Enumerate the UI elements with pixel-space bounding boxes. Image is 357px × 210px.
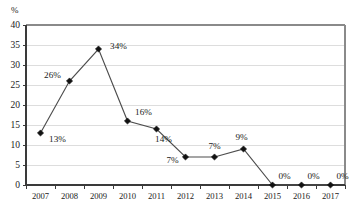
data-point-labels-group: 13%26%34%16%14%7%7%9%0%0%0% [44,41,349,181]
data-point-label: 34% [110,41,127,51]
x-axis-tick-label: 2007 [32,191,50,201]
data-point-label: 13% [49,134,66,144]
x-axis-tick-label: 2008 [61,191,78,201]
x-axis-tick-label: 2013 [206,191,223,201]
data-point-label: 26% [44,70,61,80]
y-axis-tick-label: 20 [11,100,21,110]
x-axis-tick-labels-group: 2007200820092010201120122013201420152016… [32,191,340,201]
x-axis-tick-label: 2014 [235,191,253,201]
y-axis-tick-label: 25 [11,80,21,90]
x-axis-tick-label: 2012 [177,191,194,201]
x-axis-tick-label: 2010 [119,191,136,201]
chart-canvas: % 0510152025303540 200720082009201020112… [0,0,357,210]
data-point-label: 16% [135,107,152,117]
data-point-label: 0% [307,171,320,181]
data-point-label: 7% [166,155,179,165]
x-axis-tick-label: 2011 [148,191,165,201]
data-point-label: 9% [235,132,248,142]
x-axis-tick-label: 2016 [293,191,311,201]
y-axis-unit-label: % [11,5,19,15]
series-data-marker [327,182,333,188]
series-data-marker [37,130,43,136]
data-point-label: 0% [278,171,291,181]
series-data-marker [211,154,217,160]
x-axis-tick-label: 2017 [322,191,340,201]
series-data-marker [124,118,130,124]
y-axis-tick-label: 15 [11,120,21,130]
data-point-label: 14% [155,134,172,144]
x-axis-tick-label: 2009 [90,191,107,201]
y-axis-tick-label: 10 [11,140,21,150]
y-axis-tick-label: 30 [11,60,21,70]
y-axis-tick-labels-group: 0510152025303540 [11,20,21,190]
y-axis-tick-label: 5 [15,160,20,170]
y-axis-tick-label: 40 [11,20,21,30]
y-axis-tick-label: 0 [15,180,20,190]
x-axis-tick-label: 2015 [264,191,281,201]
line-chart-figure: % 0510152025303540 200720082009201020112… [0,0,357,210]
y-axis-tick-label: 35 [11,40,21,50]
data-point-label: 7% [208,141,221,151]
gridlines-group [26,45,345,165]
data-point-label: 0% [336,171,349,181]
series-data-marker [298,182,304,188]
